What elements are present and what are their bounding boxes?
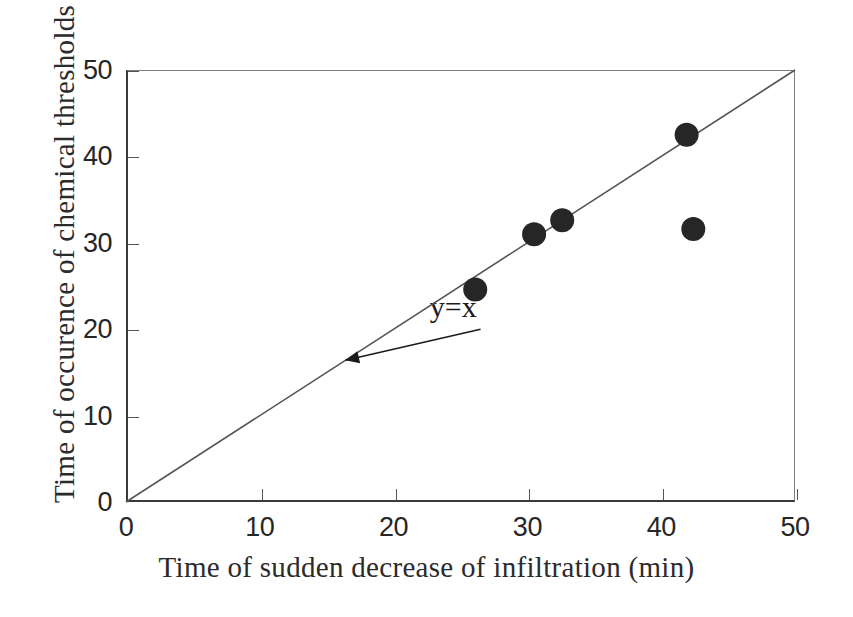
data-point-marker: [550, 208, 574, 232]
data-point-marker: [681, 217, 705, 241]
data-point-marker: [675, 123, 699, 147]
annotation-arrow-line: [345, 329, 480, 360]
data-point-marker: [463, 277, 487, 301]
scatter-plot-figure: Time of occurence of chemical thresholds…: [0, 0, 853, 617]
plot-overlay: [0, 0, 853, 617]
data-point-marker: [522, 222, 546, 246]
